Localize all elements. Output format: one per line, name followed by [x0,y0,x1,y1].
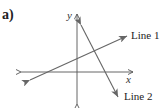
coordinate-graph: y x Line 1 Line 2 [0,0,168,108]
line-2-label: Line 2 [124,90,152,102]
y-axis-label: y [66,9,72,21]
line-2 [81,25,118,97]
line-1-label: Line 1 [131,29,159,41]
x-axis-label: x [125,73,131,85]
line-1 [30,36,127,80]
